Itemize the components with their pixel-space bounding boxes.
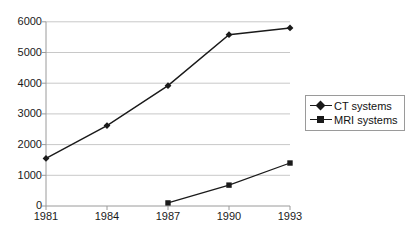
chart-legend: CT systems MRI systems xyxy=(305,95,405,131)
y-tick-label-5000: 5000 xyxy=(2,47,42,58)
data-point-marker xyxy=(43,155,50,162)
series-ct-systems xyxy=(43,25,294,162)
data-point-marker xyxy=(287,25,294,32)
y-tick-label-3000: 3000 xyxy=(2,108,42,119)
data-point-marker xyxy=(226,182,231,187)
mri-systems-markers xyxy=(165,160,292,205)
line-chart: 6000 5000 4000 3000 2000 1000 0 1981 198… xyxy=(0,0,417,240)
gridlines xyxy=(46,22,290,176)
legend-label-mri-systems: MRI systems xyxy=(333,114,398,126)
legend-item-ct-systems: CT systems xyxy=(309,99,401,113)
x-tick-label-1984: 1984 xyxy=(85,211,129,222)
legend-item-mri-systems: MRI systems xyxy=(309,113,401,127)
x-tick-label-1990: 1990 xyxy=(207,211,251,222)
series-mri-systems xyxy=(165,160,292,205)
data-point-marker xyxy=(165,200,170,205)
y-tick-label-2000: 2000 xyxy=(2,139,42,150)
y-axis-labels: 6000 5000 4000 3000 2000 1000 0 xyxy=(0,0,42,240)
y-axis-ticks xyxy=(42,22,46,206)
y-tick-label-6000: 6000 xyxy=(2,16,42,27)
x-tick-label-1981: 1981 xyxy=(24,211,68,222)
legend-label-ct-systems: CT systems xyxy=(333,100,392,112)
ct-systems-markers xyxy=(43,25,294,162)
x-axis-labels: 1981 1984 1987 1990 1993 xyxy=(0,211,417,227)
data-point-marker xyxy=(287,160,292,165)
square-marker-icon xyxy=(309,113,333,127)
x-tick-label-1993: 1993 xyxy=(268,211,312,222)
ct-systems-line xyxy=(46,28,290,158)
y-tick-label-1000: 1000 xyxy=(2,170,42,181)
diamond-marker-icon xyxy=(309,99,333,113)
y-tick-label-4000: 4000 xyxy=(2,78,42,89)
x-tick-label-1987: 1987 xyxy=(146,211,190,222)
